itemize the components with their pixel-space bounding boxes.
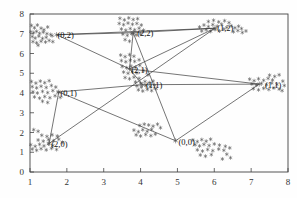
- x-tick-label: 2: [65, 177, 70, 187]
- data-point: [51, 89, 54, 93]
- data-point: [36, 129, 39, 133]
- data-point: [120, 27, 123, 31]
- data-point: [47, 38, 50, 42]
- data-point: [43, 81, 46, 85]
- data-point: [30, 35, 33, 39]
- data-point: [50, 84, 53, 88]
- data-point: [127, 16, 130, 20]
- data-point: [33, 95, 36, 99]
- data-point: [35, 29, 38, 33]
- data-point: [147, 123, 150, 127]
- data-point: [44, 148, 47, 152]
- x-axis-tick-labels: 12345678: [28, 177, 291, 187]
- data-point: [241, 31, 244, 35]
- y-axis-tick-labels: 012345678: [20, 9, 25, 177]
- x-tick-label: 6: [212, 177, 217, 187]
- data-point: [34, 81, 37, 85]
- data-point: [202, 23, 205, 27]
- y-tick-label: 4: [20, 88, 25, 98]
- data-point: [45, 32, 48, 36]
- data-point: [206, 147, 209, 151]
- node-label: (2,1): [131, 65, 147, 75]
- data-point: [35, 86, 38, 90]
- x-tick-label: 7: [249, 177, 254, 187]
- data-point: [38, 31, 41, 35]
- data-point: [141, 128, 144, 132]
- data-point: [46, 91, 49, 95]
- data-point: [38, 142, 41, 146]
- data-point: [43, 95, 46, 99]
- data-point: [140, 23, 143, 27]
- data-point: [173, 138, 178, 143]
- data-point: [54, 85, 57, 89]
- data-point: [244, 29, 247, 33]
- data-point: [122, 70, 125, 74]
- data-point: [36, 138, 39, 142]
- data-point: [46, 25, 49, 29]
- data-point: [39, 147, 42, 151]
- plot-canvas: 12345678 012345678 (0,2)(2,2)(1,2)(2,1)(…: [0, 0, 297, 198]
- data-point: [32, 128, 35, 132]
- node-label: (2,2): [137, 28, 153, 38]
- data-point: [46, 100, 49, 104]
- y-tick-label: 8: [20, 9, 25, 19]
- data-point: [136, 17, 139, 21]
- data-point: [277, 73, 280, 77]
- data-point: [48, 96, 51, 100]
- data-point: [199, 153, 202, 157]
- data-point: [196, 148, 199, 152]
- x-tick-label: 3: [101, 177, 106, 187]
- data-point: [133, 59, 136, 63]
- y-tick-label: 7: [20, 29, 25, 39]
- node-label: (1,1): [146, 80, 162, 90]
- node-labels: (0,2)(2,2)(1,2)(2,1)(1,1)(0,1)(1,1)(2,0)…: [51, 23, 281, 150]
- data-point: [42, 28, 45, 32]
- data-point: [44, 85, 47, 89]
- y-tick-label: 6: [20, 49, 25, 59]
- data-point: [47, 79, 50, 83]
- data-point: [218, 143, 221, 147]
- data-point: [132, 54, 135, 58]
- data-point: [126, 21, 129, 25]
- data-point: [37, 34, 40, 38]
- data-point: [120, 59, 123, 63]
- data-point: [123, 76, 126, 80]
- data-point: [124, 60, 127, 64]
- data-point: [213, 142, 216, 146]
- data-point: [44, 40, 47, 44]
- data-point: [129, 27, 132, 31]
- data-point: [139, 134, 142, 138]
- data-point: [222, 148, 225, 152]
- data-point: [149, 134, 152, 138]
- data-point: [212, 18, 215, 22]
- y-tick-label: 2: [20, 128, 25, 138]
- data-point: [257, 77, 260, 81]
- data-point: [128, 77, 131, 81]
- data-point: [39, 26, 42, 30]
- data-point: [53, 94, 56, 98]
- data-point: [221, 157, 224, 161]
- data-point: [156, 122, 159, 126]
- data-point: [31, 40, 34, 44]
- data-point: [204, 154, 207, 158]
- data-point: [137, 88, 140, 92]
- x-axis-ticks: [30, 168, 288, 172]
- data-point: [209, 137, 212, 141]
- data-point: [198, 25, 201, 29]
- data-point: [42, 30, 45, 34]
- node-label: (1,2): [217, 23, 233, 33]
- y-tick-label: 5: [20, 68, 25, 78]
- data-point: [135, 21, 138, 25]
- x-tick-label: 1: [28, 177, 33, 187]
- data-point: [217, 147, 220, 151]
- data-point: [44, 35, 47, 39]
- data-point: [207, 20, 210, 24]
- data-point: [211, 149, 214, 153]
- data-point: [201, 149, 204, 153]
- data-point: [122, 23, 125, 27]
- data-point: [257, 88, 260, 92]
- data-point: [211, 23, 214, 27]
- data-point: [229, 156, 232, 160]
- data-point: [134, 133, 137, 137]
- graph-edge: [176, 84, 260, 141]
